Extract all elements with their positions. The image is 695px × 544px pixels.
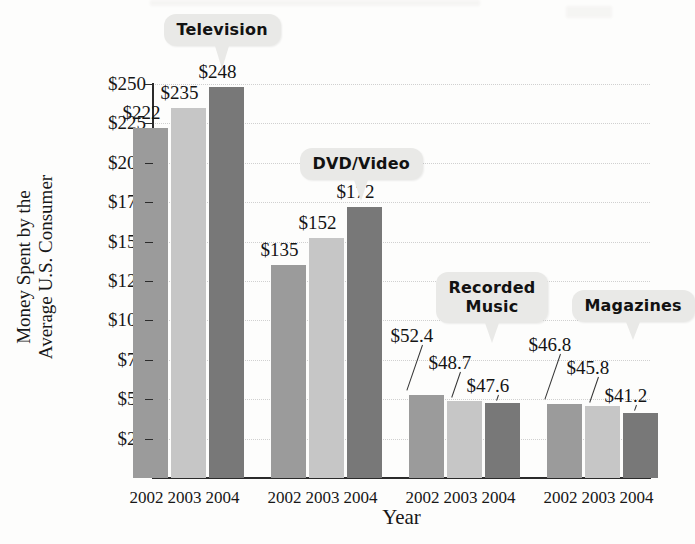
x-axis-tick-label: 2002 bbox=[130, 489, 164, 506]
callout-label: Television bbox=[177, 20, 268, 39]
bar-group: $1352002$1522003$1722004 bbox=[270, 84, 384, 478]
y-axis-tick bbox=[145, 281, 153, 282]
x-axis-tick-label: 2002 bbox=[544, 489, 578, 506]
value-leader-line bbox=[451, 372, 461, 398]
y-axis-tick bbox=[145, 399, 153, 400]
x-axis-tick-label: 2003 bbox=[168, 489, 202, 506]
x-axis-title: Year bbox=[153, 505, 650, 530]
y-axis-tick bbox=[145, 163, 153, 164]
bar-value-label: $48.7 bbox=[429, 353, 472, 372]
x-axis-tick-label: 2002 bbox=[268, 489, 302, 506]
y-axis-tick-label: $100 bbox=[6, 310, 146, 329]
callout-magazines: Magazines bbox=[572, 290, 695, 322]
bar[interactable] bbox=[209, 87, 244, 478]
bar-value-label: $52.4 bbox=[391, 326, 434, 345]
bar[interactable] bbox=[623, 413, 658, 478]
bar[interactable] bbox=[485, 403, 520, 478]
y-axis-tick bbox=[145, 242, 153, 243]
scan-artifact bbox=[150, 0, 480, 6]
bar-value-label: $45.8 bbox=[567, 358, 610, 377]
bars-layer: $2222002$2352003$2482004$1352002$1522003… bbox=[153, 84, 650, 478]
bar[interactable] bbox=[547, 404, 582, 478]
x-axis-tick-label: 2004 bbox=[482, 489, 516, 506]
y-axis-tick-label: $50 bbox=[6, 389, 146, 408]
bar-value-label: $135 bbox=[261, 240, 299, 259]
y-axis-tick-label: $125 bbox=[6, 271, 146, 290]
callout-television: Television bbox=[164, 14, 281, 46]
y-axis-tick bbox=[145, 360, 153, 361]
bar-value-label: $46.8 bbox=[529, 335, 572, 354]
bar[interactable] bbox=[409, 395, 444, 478]
y-axis-tick bbox=[145, 202, 153, 203]
bar[interactable] bbox=[309, 238, 344, 478]
y-axis-tick bbox=[145, 84, 153, 85]
y-axis-tick-label: $175 bbox=[6, 192, 146, 211]
x-axis-tick-label: 2004 bbox=[344, 489, 378, 506]
bar-value-label: $47.6 bbox=[467, 376, 510, 395]
bar-value-label: $152 bbox=[299, 213, 337, 232]
y-axis-tick bbox=[145, 123, 153, 124]
y-axis-tick-label: $25 bbox=[6, 429, 146, 448]
bar[interactable] bbox=[271, 265, 306, 478]
bar-group: $46.82002$45.82003$41.22004 bbox=[546, 84, 660, 478]
x-axis-tick-label: 2004 bbox=[620, 489, 654, 506]
callout-pointer bbox=[626, 322, 640, 340]
callout-recorded-music: RecordedMusic bbox=[436, 272, 549, 323]
bar[interactable] bbox=[171, 108, 206, 478]
y-axis-tick-label: $250 bbox=[6, 74, 146, 93]
x-axis-tick-label: 2002 bbox=[406, 489, 440, 506]
x-axis-tick-label: 2003 bbox=[444, 489, 478, 506]
callout-label: Magazines bbox=[585, 296, 682, 315]
callout-line1: Recorded bbox=[449, 278, 536, 297]
value-leader-line bbox=[406, 345, 423, 391]
scan-artifact bbox=[566, 6, 612, 18]
y-axis-tick-label: $200 bbox=[6, 153, 146, 172]
callout-pointer bbox=[354, 180, 368, 201]
y-axis-tick-label: $75 bbox=[6, 350, 146, 369]
bar[interactable] bbox=[347, 207, 382, 478]
callout-dvd-video: DVD/Video bbox=[300, 148, 423, 180]
value-leader-line bbox=[589, 377, 599, 403]
y-axis-ticks: $250$225$200$175$150$125$100$75$50$25 bbox=[0, 0, 146, 544]
callout-pointer bbox=[215, 46, 229, 69]
x-axis-tick-label: 2004 bbox=[206, 489, 240, 506]
bar[interactable] bbox=[447, 401, 482, 478]
callout-pointer bbox=[485, 323, 499, 343]
y-axis-tick-label: $150 bbox=[6, 232, 146, 251]
value-leader-line bbox=[544, 354, 561, 400]
callout-line2: Music bbox=[449, 297, 536, 316]
bar[interactable] bbox=[133, 128, 168, 478]
callout-label: DVD/Video bbox=[313, 154, 410, 173]
bar[interactable] bbox=[585, 406, 620, 478]
bar-value-label: $222 bbox=[123, 103, 161, 122]
y-axis-tick bbox=[145, 320, 153, 321]
x-axis-tick-label: 2003 bbox=[306, 489, 340, 506]
bar-value-label: $235 bbox=[161, 83, 199, 102]
y-axis-tick bbox=[145, 439, 153, 440]
x-axis-tick-label: 2003 bbox=[582, 489, 616, 506]
bar-value-label: $41.2 bbox=[605, 386, 648, 405]
